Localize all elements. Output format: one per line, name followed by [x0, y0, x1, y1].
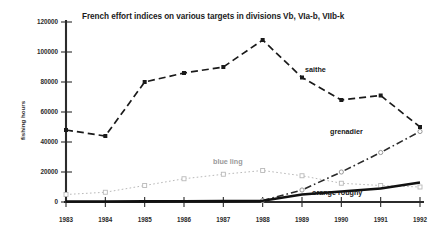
series-orange-roughy	[66, 183, 420, 202]
x-tick-label: 1992	[413, 216, 428, 223]
data-point	[64, 193, 68, 197]
data-point	[143, 184, 147, 188]
data-point	[418, 185, 422, 189]
chart-title: French effort indices on various targets…	[82, 12, 345, 21]
data-point	[221, 65, 225, 69]
data-point	[339, 181, 343, 185]
x-tick-label: 1985	[138, 216, 153, 223]
y-tick-label: 20000	[40, 168, 58, 175]
data-point	[64, 128, 68, 132]
y-tick-label: 80000	[40, 78, 58, 85]
y-axis-title: fishing hours	[19, 100, 26, 140]
series-saithe	[64, 38, 422, 138]
y-tick-label: 0	[54, 198, 58, 205]
data-point	[261, 38, 265, 42]
y-tick-label: 40000	[40, 138, 58, 145]
chart-svg: French effort indices on various targets…	[0, 0, 433, 236]
data-point	[300, 174, 304, 178]
data-point	[103, 134, 107, 138]
data-point	[379, 94, 383, 98]
data-point	[182, 177, 186, 181]
data-point	[300, 188, 304, 192]
data-point	[379, 150, 383, 154]
series-line	[66, 171, 420, 195]
series-blue-ling	[64, 169, 422, 197]
data-point	[418, 125, 422, 129]
series-line	[66, 183, 420, 202]
x-tick-label: 1984	[98, 216, 113, 223]
x-tick-label: 1989	[295, 216, 310, 223]
data-point	[143, 80, 147, 84]
x-tick-label: 1990	[334, 216, 349, 223]
x-tick-label: 1983	[59, 216, 74, 223]
x-tick-label: 1991	[374, 216, 389, 223]
series-label-blue-ling: blue ling	[213, 157, 243, 166]
data-point	[182, 71, 186, 75]
data-point	[339, 170, 343, 174]
data-point	[300, 76, 304, 80]
y-tick-label: 120000	[37, 18, 59, 25]
y-tick-label: 100000	[37, 48, 59, 55]
series-label-saithe: saithe	[305, 65, 326, 74]
data-point	[339, 98, 343, 102]
y-tick-label: 60000	[40, 108, 58, 115]
series-label-orange-roughy: orange roughy	[312, 188, 362, 197]
series-layer	[64, 38, 422, 203]
data-point	[221, 172, 225, 176]
data-point	[261, 169, 265, 173]
x-tick-label: 1988	[256, 216, 271, 223]
data-point	[379, 184, 383, 188]
data-point	[103, 190, 107, 194]
series-line	[66, 40, 420, 136]
chart-container: French effort indices on various targets…	[0, 0, 433, 236]
x-tick-label: 1987	[216, 216, 231, 223]
x-tick-label: 1986	[177, 216, 192, 223]
series-label-grenadier: grenadier	[330, 127, 363, 136]
data-point	[418, 129, 422, 133]
